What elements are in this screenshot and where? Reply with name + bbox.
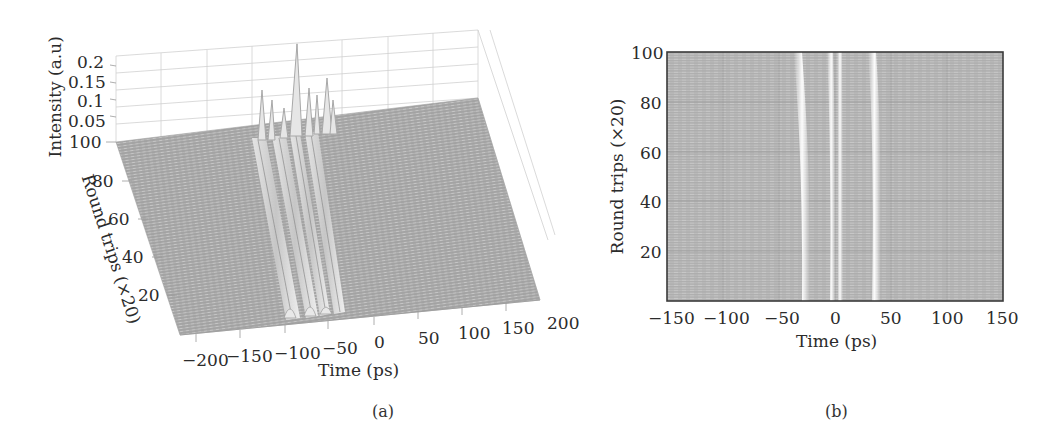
x-axis-title: Time (ps)	[318, 362, 399, 379]
x-tick: −150	[226, 348, 273, 365]
x-tick: −50	[764, 310, 800, 327]
x-tick: 50	[418, 330, 440, 347]
y-tick: 100	[69, 134, 101, 151]
x-tick: 150	[502, 320, 534, 337]
panel-label-a: (a)	[372, 404, 394, 420]
z-axis	[110, 65, 116, 117]
z-tick: 0.05	[68, 113, 106, 130]
x-tick: 150	[986, 310, 1018, 327]
y-axis-title: Round trips (×20)	[609, 92, 626, 262]
x-tick: 0	[374, 334, 385, 351]
x-tick: −100	[703, 310, 750, 327]
x-tick: 200	[547, 315, 579, 332]
y-tick: 60	[640, 145, 662, 162]
x-axis-title: Time (ps)	[796, 333, 877, 350]
z-axis-title: Intensity (a.u)	[47, 48, 64, 158]
z-tick: 0.15	[68, 74, 106, 91]
y-tick: 80	[640, 95, 662, 112]
panel-label-b: (b)	[825, 404, 848, 420]
y-tick: 100	[631, 45, 663, 62]
y-tick: 20	[640, 244, 662, 261]
x-tick: 100	[931, 310, 963, 327]
x-tick: 50	[880, 310, 902, 327]
y-tick: 40	[640, 194, 662, 211]
y-tick: 20	[138, 287, 160, 304]
x-tick: 100	[458, 325, 490, 342]
x-tick: −50	[322, 340, 358, 357]
z-tick: 0.2	[77, 54, 104, 71]
pulse-streaks	[794, 52, 881, 301]
x-tick: −150	[648, 310, 695, 327]
z-tick: 0.1	[77, 93, 104, 110]
x-tick: −200	[182, 352, 229, 369]
x-tick: −100	[274, 345, 321, 362]
x-tick: 0	[830, 310, 841, 327]
